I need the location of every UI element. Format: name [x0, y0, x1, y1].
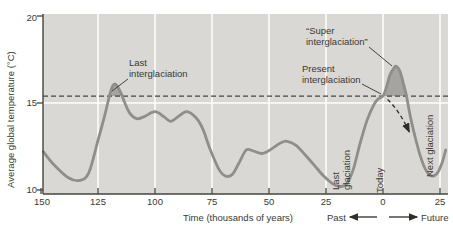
x-tick-label-50: 50: [257, 196, 281, 207]
y-tick-label-15: 15: [17, 97, 37, 108]
annotation-present-interglaciation: Present interglaciation: [302, 63, 361, 85]
annotation-last-interglaciation: Last interglaciation: [129, 57, 188, 79]
annotation-super-interglaciation: “Super interglaciation”: [306, 25, 368, 47]
x-axis-title: Time (thousands of years): [158, 212, 318, 223]
label-today: Today: [374, 168, 385, 193]
y-axis-title: Average global temperature (°C): [5, 51, 16, 188]
x-tick-label-25-past: 25: [314, 196, 338, 207]
future-label: Future: [421, 212, 448, 223]
climate-temperature-figure: Average global temperature (°C) 20 15 10…: [0, 0, 453, 233]
x-tick-label-0: 0: [371, 196, 395, 207]
x-tick-label-100: 100: [143, 196, 167, 207]
label-next-glaciation: Next glaciation: [424, 115, 435, 177]
x-tick-label-125: 125: [86, 196, 110, 207]
label-last-glaciation: Last glaciation: [330, 150, 352, 190]
x-tick-label-25-future: 25: [428, 196, 452, 207]
y-tick-label-10: 10: [17, 184, 37, 195]
past-label: Past: [316, 212, 346, 223]
y-tick-label-20: 20: [17, 12, 37, 23]
x-tick-label-150: 150: [30, 196, 54, 207]
x-tick-label-75: 75: [200, 196, 224, 207]
